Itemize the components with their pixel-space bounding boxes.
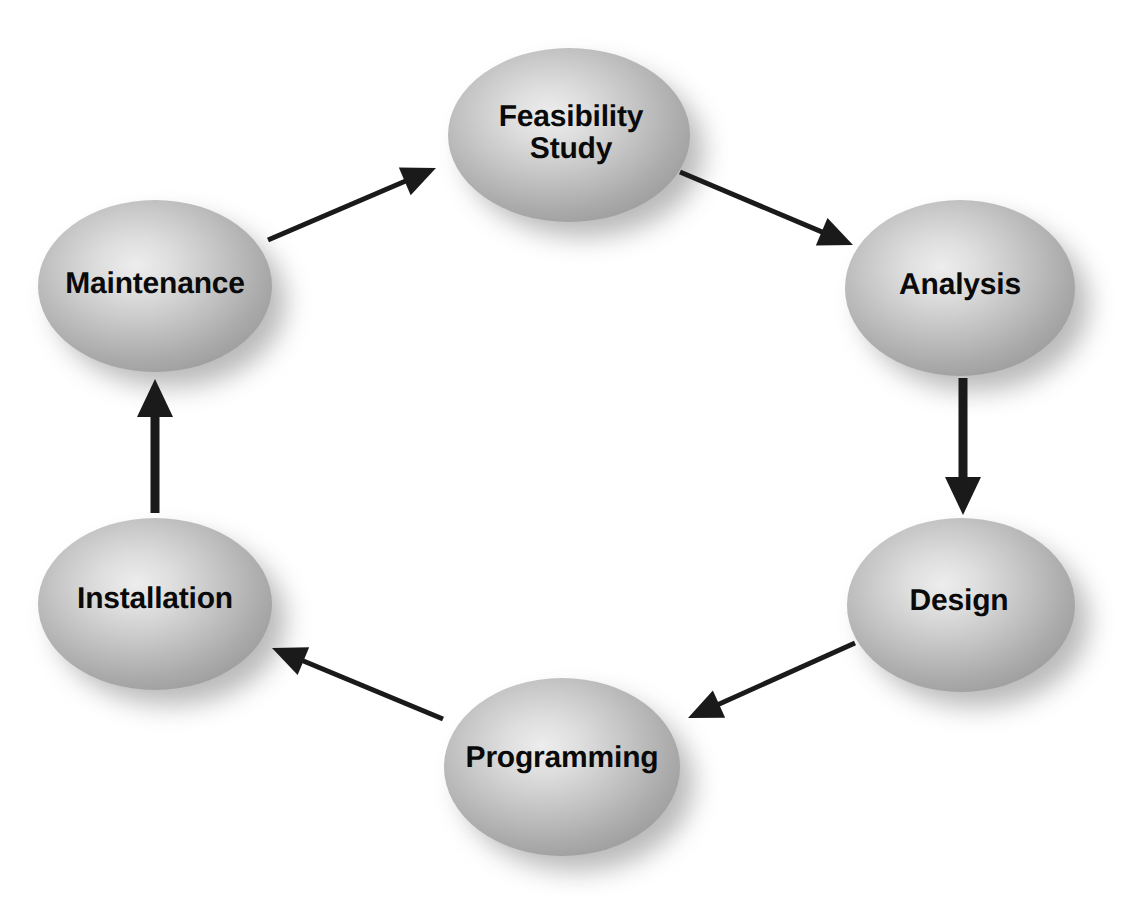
node-ellipse-design	[847, 518, 1075, 692]
arrow-shaft-maintenance-to-feasibility	[268, 176, 418, 240]
node-ellipse-feasibility-study	[448, 48, 690, 222]
node-ellipse-layer	[38, 48, 1075, 856]
arrow-feasibility-to-analysis	[680, 172, 853, 246]
node-ellipse-programming	[444, 678, 680, 856]
arrow-programming-to-installation	[272, 647, 443, 719]
node-ellipse-analysis	[845, 200, 1075, 376]
arrow-installation-to-maintenance	[137, 379, 173, 513]
arrow-shaft-programming-to-installation	[290, 656, 443, 719]
arrow-shaft-feasibility-to-analysis	[680, 172, 835, 237]
arrow-shaft-design-to-programming	[706, 643, 855, 710]
diagram-canvas: Feasibility StudyAnalysisDesignProgrammi…	[0, 0, 1128, 899]
node-ellipse-installation	[38, 518, 272, 690]
diagram-svg	[0, 0, 1128, 899]
node-ellipse-maintenance	[38, 200, 272, 372]
arrow-head-analysis-to-design	[945, 477, 981, 515]
arrow-maintenance-to-feasibility	[268, 168, 436, 240]
arrow-design-to-programming	[688, 643, 855, 718]
arrow-analysis-to-design	[945, 378, 981, 515]
